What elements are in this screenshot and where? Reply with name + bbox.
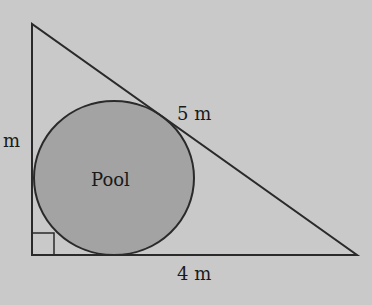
left-side-label: m	[3, 130, 20, 151]
base-label: 4 m	[177, 263, 211, 284]
pool-label: Pool	[91, 169, 130, 190]
triangle-pool-diagram	[0, 0, 372, 305]
right-angle-marker	[32, 233, 54, 255]
hypotenuse-label: 5 m	[177, 103, 211, 124]
